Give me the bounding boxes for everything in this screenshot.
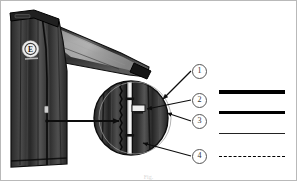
callout-number-4: 4 [192,149,207,164]
svg-text:E: E [28,45,33,54]
figure-caption: Fig. [1,174,296,180]
magnified-detail-circle [94,81,171,156]
legend-row-3: 3 [219,127,297,140]
legend-swatch-2 [219,111,285,113]
legend-row-4: 4 [219,150,297,163]
callout-number-3: 3 [192,114,207,129]
legend-row-1: 1 [219,85,297,98]
legend-swatch-3 [219,133,285,134]
legend-swatch-4 [219,156,285,157]
garment-body [10,10,67,167]
callout-number-2: 2 [192,93,207,108]
legend-row-2: 2 [219,106,297,119]
legend-swatch-1 [219,90,285,94]
figure-canvas: E [0,0,297,181]
callout-number-1: 1 [192,64,207,79]
